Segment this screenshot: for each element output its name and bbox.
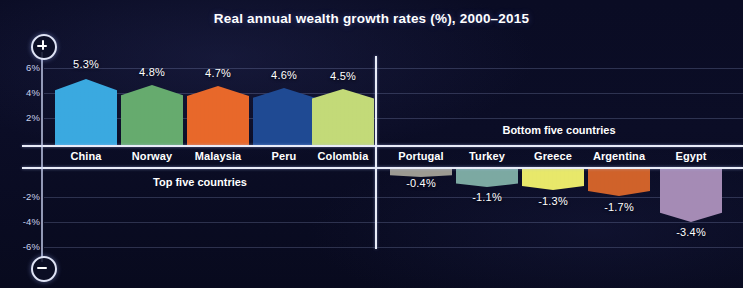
- bar-argentina[interactable]: [588, 167, 650, 196]
- bar-malaysia[interactable]: [187, 86, 249, 145]
- bar-colombia[interactable]: [312, 89, 374, 145]
- axis-rule-lower: [22, 167, 743, 169]
- y-axis-tick-2: 2%: [8, 112, 40, 123]
- axis-rule-upper: [22, 145, 743, 147]
- group-caption-top: Top five countries: [30, 176, 370, 188]
- chart-container: Real annual wealth growth rates (%), 200…: [0, 0, 743, 288]
- value-label-argentina: -1.7%: [576, 201, 662, 213]
- category-label-portugal: Portugal: [386, 148, 456, 165]
- category-label-argentina: Argentina: [584, 148, 654, 165]
- y-axis-tick-neg-2: -2%: [8, 191, 40, 202]
- category-label-turkey: Turkey: [452, 148, 522, 165]
- category-label-colombia: Colombia: [308, 148, 378, 165]
- category-label-egypt: Egypt: [656, 148, 726, 165]
- bar-egypt[interactable]: [660, 167, 722, 222]
- zoom-slider-track[interactable]: [41, 52, 43, 262]
- gridline-neg-2: [44, 197, 743, 198]
- y-axis-tick-neg-4: -4%: [8, 216, 40, 227]
- value-label-egypt: -3.4%: [648, 226, 734, 238]
- value-label-portugal: -0.4%: [378, 177, 464, 189]
- category-label-norway: Norway: [117, 148, 187, 165]
- group-caption-bottom: Bottom five countries: [380, 124, 738, 136]
- category-label-greece: Greece: [518, 148, 588, 165]
- y-axis-tick-4: 4%: [8, 87, 40, 98]
- category-label-china: China: [51, 148, 121, 165]
- y-axis-tick-neg-6: -6%: [8, 241, 40, 252]
- bar-peru[interactable]: [253, 88, 315, 145]
- category-label-malaysia: Malaysia: [183, 148, 253, 165]
- gridline-neg-4: [44, 222, 743, 223]
- bar-norway[interactable]: [121, 85, 183, 145]
- minus-icon[interactable]: [31, 256, 57, 282]
- y-axis-tick-6: 6%: [8, 62, 40, 73]
- bar-greece[interactable]: [522, 167, 584, 190]
- gridline-neg-6: [44, 247, 743, 248]
- plus-icon[interactable]: [31, 34, 57, 60]
- value-label-colombia: 4.5%: [300, 70, 386, 82]
- bar-turkey[interactable]: [456, 167, 518, 187]
- plot-area: 6% 4% 2% -2% -4% -6% 5.3% 4.8% 4.7% 4.6%…: [0, 0, 743, 288]
- bar-china[interactable]: [55, 79, 117, 145]
